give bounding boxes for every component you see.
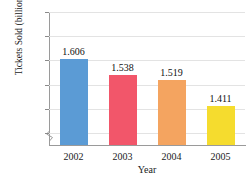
x-tick-label: 2005	[198, 151, 244, 162]
bar	[207, 106, 235, 145]
bar	[60, 59, 88, 145]
bar	[109, 75, 137, 145]
plot-area: 1.31.41.51.61.71.8 1.6061.5381.5191.411 …	[49, 12, 245, 137]
y-tick-mark	[45, 36, 49, 37]
y-tick-mark	[45, 60, 49, 61]
gridline	[49, 36, 245, 37]
bar	[158, 80, 186, 145]
y-tick-mark	[45, 85, 49, 86]
gridline	[49, 12, 245, 13]
bar-value-label: 1.519	[149, 67, 195, 78]
y-tick-mark	[45, 133, 49, 134]
y-axis-line	[49, 12, 50, 145]
y-tick-mark	[45, 109, 49, 110]
x-tick-label: 2003	[100, 151, 146, 162]
x-tick-label: 2004	[149, 151, 195, 162]
y-axis-label: Tickets Sold (billions)	[14, 0, 24, 85]
x-axis-label: Year	[49, 164, 245, 175]
y-tick-mark	[45, 12, 49, 13]
bar-value-label: 1.411	[198, 93, 244, 104]
bar-value-label: 1.606	[51, 46, 97, 57]
x-tick-label: 2002	[51, 151, 97, 162]
bar-value-label: 1.538	[100, 62, 146, 73]
x-axis-line	[49, 145, 246, 146]
bar-chart: Tickets Sold (billions) 1.31.41.51.61.71…	[0, 0, 251, 185]
